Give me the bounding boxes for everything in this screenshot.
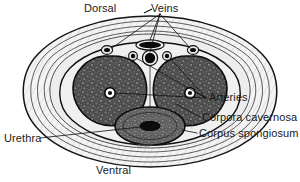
dorsal-artery-left [129,52,138,61]
cavernosal-artery-left [105,88,115,98]
dorsal-artery-right [163,52,172,61]
urethra [140,121,160,130]
label-corpora-cavernosa: Corpora cavernosa [202,112,297,123]
label-corpus-spongiosum: Corpus spongiosum [199,128,299,139]
circumflex-vein-left [101,46,112,55]
anatomy-diagram [0,0,300,182]
label-arteries: Arteries [209,92,248,103]
figure-canvas: Dorsal Veins Arteries Corpora cavernosa … [0,0,300,182]
label-dorsal: Dorsal [84,3,116,14]
label-veins: Veins [151,3,178,14]
deep-dorsal-vein [136,40,164,50]
label-urethra: Urethra [4,133,41,144]
label-ventral: Ventral [96,165,131,176]
